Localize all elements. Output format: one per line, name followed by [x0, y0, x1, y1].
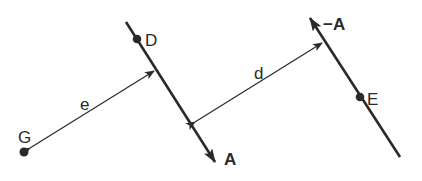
point-g-dot — [20, 148, 29, 157]
label-distance-e: e — [80, 95, 89, 114]
line-a — [126, 22, 215, 162]
label-distance-d: d — [254, 64, 263, 83]
point-d-dot — [133, 35, 142, 44]
line-minus-a — [310, 18, 400, 157]
diagram-canvas: D E G e d A −A — [0, 0, 422, 181]
diagram-svg: D E G e d A −A — [0, 0, 422, 181]
distance-e-arrow — [30, 71, 154, 148]
point-e-dot — [356, 93, 365, 102]
label-g-point: G — [18, 128, 31, 147]
label-direction-minus-a: −A — [323, 15, 345, 34]
label-e-point: E — [367, 90, 378, 109]
label-d-point: D — [145, 31, 157, 50]
label-direction-a: A — [224, 150, 236, 169]
